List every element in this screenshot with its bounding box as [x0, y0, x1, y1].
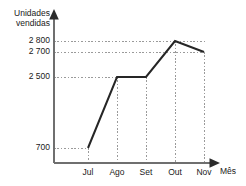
- y-tick-label-2800: 2 800: [12, 36, 50, 45]
- x-axis: [54, 158, 220, 168]
- y-axis-arrowhead: [49, 9, 59, 20]
- x-tick-label-nov: Nov: [187, 168, 221, 177]
- y-tick-label-700: 700: [12, 143, 50, 152]
- line-chart: Unidades vendidas Mês 2 800 2 700 2 500 …: [0, 0, 246, 186]
- vertical-gridlines: [88, 41, 204, 163]
- y-tick-label-2700: 2 700: [12, 47, 50, 56]
- y-axis: [49, 9, 59, 163]
- x-axis-title: Mês: [220, 166, 236, 176]
- y-axis-title: Unidades vendidas: [4, 8, 50, 28]
- horizontal-gridlines: [54, 41, 205, 148]
- y-axis-title-line-2: vendidas: [4, 18, 50, 28]
- y-tick-label-2500: 2 500: [12, 72, 50, 81]
- y-axis-title-line-1: Unidades: [4, 8, 50, 18]
